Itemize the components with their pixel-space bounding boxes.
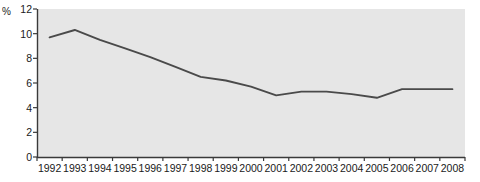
plot-canvas — [0, 0, 480, 182]
line-chart: % 024681012 1992199319941995199619971998… — [0, 0, 480, 182]
plot-background — [37, 9, 465, 157]
